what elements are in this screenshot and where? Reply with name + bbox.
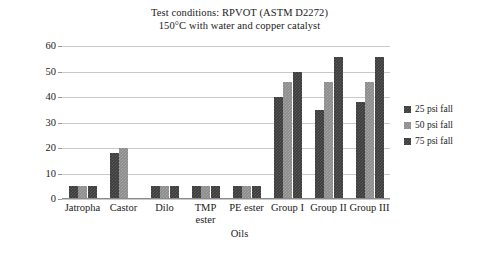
x-axis-title: Oils <box>0 228 479 239</box>
legend-swatch-icon <box>404 138 411 145</box>
chart-title-line-2: 150°C with water and copper catalyst <box>0 19 479 32</box>
y-tick-label-60: 60 <box>30 41 56 51</box>
bar-group <box>349 46 390 199</box>
bar <box>274 97 283 199</box>
bar <box>356 102 365 199</box>
legend-item: 75 psi fall <box>404 133 453 149</box>
bar-group <box>308 46 349 199</box>
x-axis-line <box>62 198 390 199</box>
y-tick-label-10: 10 <box>30 169 56 179</box>
legend-swatch-icon <box>404 122 411 129</box>
y-tick-label-30: 30 <box>30 118 56 128</box>
bar <box>324 82 333 199</box>
bar <box>110 153 119 199</box>
bar-chart: Test conditions: RPVOT (ASTM D2272) 150°… <box>0 0 479 254</box>
legend-label: 75 psi fall <box>415 136 453 146</box>
bar-group <box>62 46 103 199</box>
bar <box>334 57 343 199</box>
bar-group <box>144 46 185 199</box>
bar <box>119 148 128 199</box>
y-tick-label-40: 40 <box>30 92 56 102</box>
bar-group <box>103 46 144 199</box>
chart-title-line-1: Test conditions: RPVOT (ASTM D2272) <box>0 6 479 19</box>
chart-legend: 25 psi fall50 psi fall75 psi fall <box>404 101 453 149</box>
bar-group <box>185 46 226 199</box>
y-tick-label-20: 20 <box>30 143 56 153</box>
legend-item: 50 psi fall <box>404 117 453 133</box>
legend-label: 50 psi fall <box>415 120 453 130</box>
bar-group <box>226 46 267 199</box>
bar-group <box>267 46 308 199</box>
y-tick-label-0: 0 <box>30 194 56 204</box>
legend-swatch-icon <box>404 106 411 113</box>
gridline-0 <box>62 199 390 200</box>
legend-item: 25 psi fall <box>404 101 453 117</box>
bar <box>365 82 374 199</box>
bar <box>293 72 302 200</box>
y-tick-label-50: 50 <box>30 67 56 77</box>
legend-label: 25 psi fall <box>415 104 453 114</box>
chart-title: Test conditions: RPVOT (ASTM D2272) 150°… <box>0 6 479 32</box>
bar <box>283 82 292 199</box>
plot-area <box>62 46 390 199</box>
bar <box>315 110 324 199</box>
x-tick-label: Group III <box>343 202 396 214</box>
bar <box>375 57 384 199</box>
